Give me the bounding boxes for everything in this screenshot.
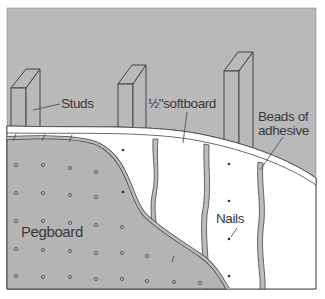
stud-right [224, 52, 253, 151]
diagram-illustration [0, 0, 325, 299]
label-beads-of-adhesive: Beads of adhesive [258, 110, 309, 138]
installation-diagram: Studs ½"softboard Beads of adhesive Nail… [0, 0, 325, 299]
label-beads-line1: Beads of [258, 110, 309, 124]
label-beads-line2: adhesive [258, 124, 309, 138]
label-nails: Nails [216, 212, 244, 226]
label-pegboard: Pegboard [21, 225, 83, 239]
label-softboard: ½"softboard [148, 97, 216, 111]
label-studs: Studs [61, 97, 94, 111]
